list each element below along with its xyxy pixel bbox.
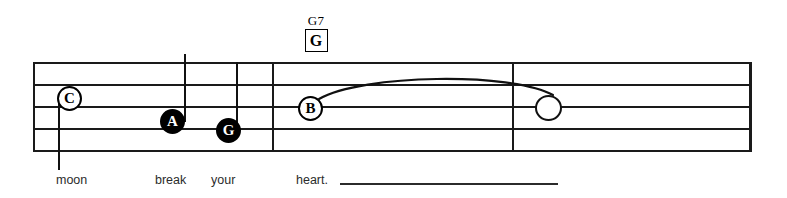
staff-line-2 bbox=[33, 128, 752, 130]
note-whole-blank[interactable] bbox=[535, 95, 562, 121]
note-letter-b: B bbox=[305, 101, 315, 116]
staff-line-1 bbox=[33, 150, 752, 152]
note-g[interactable]: G bbox=[216, 118, 241, 143]
lyric-word-2: break bbox=[155, 174, 186, 187]
lyric-extender-line bbox=[340, 183, 558, 185]
chord-symbol[interactable]: G7 G bbox=[296, 14, 336, 52]
barline-measure-1 bbox=[272, 62, 274, 152]
staff-line-4 bbox=[33, 84, 752, 86]
barline-start bbox=[33, 62, 35, 152]
lyric-word-4: heart. bbox=[296, 174, 328, 187]
barline-end bbox=[749, 62, 752, 152]
note-a[interactable]: A bbox=[160, 109, 185, 134]
note-letter-g: G bbox=[223, 123, 235, 138]
music-staff bbox=[33, 62, 752, 152]
chord-name-label: G7 bbox=[296, 14, 336, 27]
chord-diagram-box: G bbox=[305, 29, 328, 52]
note-stem-a bbox=[184, 54, 186, 122]
chord-diagram-letter: G bbox=[310, 33, 322, 49]
sheet-music-snippet: G7 G C A G B moon break your bbox=[0, 0, 787, 198]
note-c[interactable]: C bbox=[57, 86, 82, 111]
lyric-word-1: moon bbox=[56, 174, 87, 187]
note-letter-c: C bbox=[64, 91, 75, 106]
note-stem-c bbox=[58, 99, 60, 170]
note-b[interactable]: B bbox=[298, 96, 323, 121]
staff-line-3 bbox=[33, 106, 752, 108]
lyric-word-3: your bbox=[211, 174, 235, 187]
staff-line-5 bbox=[33, 62, 752, 64]
note-letter-a: A bbox=[167, 114, 178, 129]
barline-measure-2 bbox=[512, 62, 514, 152]
